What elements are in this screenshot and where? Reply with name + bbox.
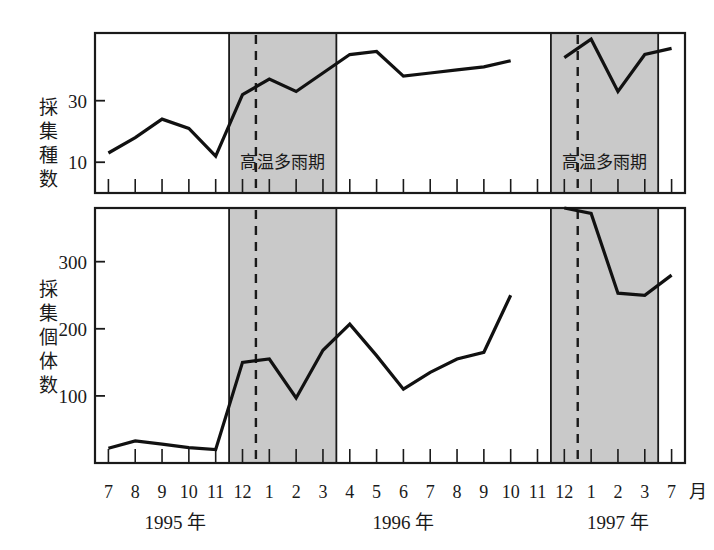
x-axis-month-label: 4 — [345, 482, 354, 502]
chart-canvas: 3010 高温多雨期高温多雨期 採集種数 300200100 採集個体数 789… — [0, 0, 714, 550]
x-axis-year-label: 1997 年 — [587, 512, 649, 533]
x-axis-month-label: 3 — [640, 482, 649, 502]
bottom-panel: 300200100 採集個体数 — [39, 208, 686, 463]
bottom-panel-y-ticks — [95, 262, 105, 396]
axis-title-char: 集 — [39, 303, 58, 324]
x-axis-year-label: 1996 年 — [373, 512, 435, 533]
x-axis-month-label: 9 — [158, 482, 167, 502]
top-panel: 3010 高温多雨期高温多雨期 採集種数 — [39, 33, 686, 193]
x-axis-year-labels: 1995 年1996 年1997 年 — [145, 512, 649, 533]
figure-root: 3010 高温多雨期高温多雨期 採集種数 300200100 採集個体数 789… — [0, 0, 714, 550]
axis-title-char: 採 — [39, 279, 58, 300]
bottom-panel-y-tick-labels: 300200100 — [59, 252, 88, 407]
x-axis-month-label: 2 — [292, 482, 301, 502]
axis-title-char: 体 — [39, 351, 58, 372]
x-axis-month-label: 11 — [529, 482, 546, 502]
x-axis-month-label: 2 — [613, 482, 622, 502]
x-axis-month-label: 8 — [453, 482, 462, 502]
axis-title-char: 数 — [39, 169, 58, 190]
x-axis-month-label: 8 — [131, 482, 140, 502]
y-tick-label: 200 — [59, 319, 88, 340]
top-panel-band-labels: 高温多雨期高温多雨期 — [240, 153, 647, 172]
x-axis-month-labels: 7891011121234567891011121237 — [104, 482, 676, 502]
x-axis-month-label: 9 — [479, 482, 488, 502]
x-axis-month-label: 10 — [180, 482, 198, 502]
x-axis-month-label: 3 — [318, 482, 327, 502]
shaded-band-1 — [551, 208, 658, 463]
top-panel-y-tick-labels: 3010 — [68, 91, 87, 174]
y-tick-label: 30 — [68, 91, 87, 112]
x-axis-month-label: 1 — [265, 482, 274, 502]
axis-title-char: 個 — [39, 327, 58, 348]
shaded-band-0 — [229, 208, 336, 463]
x-axis-month-label: 12 — [234, 482, 252, 502]
x-axis-month-label: 7 — [426, 482, 435, 502]
x-axis-month-label: 12 — [555, 482, 573, 502]
top-panel-axis-title: 採集種数 — [39, 97, 58, 190]
band-label-0: 高温多雨期 — [240, 153, 325, 172]
bottom-panel-shaded-bands — [229, 208, 658, 463]
top-panel-y-ticks — [95, 101, 105, 163]
axis-title-char: 集 — [39, 121, 58, 142]
x-axis-month-label: 1 — [587, 482, 596, 502]
y-tick-label: 300 — [59, 252, 88, 273]
x-axis: 7891011121234567891011121237 1995 年1996 … — [104, 482, 707, 533]
x-axis-year-label: 1995 年 — [145, 512, 207, 533]
axis-title-char: 種 — [39, 145, 58, 166]
band-label-1: 高温多雨期 — [562, 153, 647, 172]
axis-title-char: 採 — [39, 97, 58, 118]
month-unit-label: 月 — [689, 482, 707, 502]
bottom-panel-axis-title: 採集個体数 — [39, 279, 58, 396]
axis-title-char: 数 — [39, 375, 58, 396]
x-axis-month-label: 6 — [399, 482, 408, 502]
y-tick-label: 100 — [59, 386, 88, 407]
x-axis-month-label: 7 — [104, 482, 113, 502]
x-axis-month-label: 7 — [667, 482, 676, 502]
y-tick-label: 10 — [68, 152, 87, 173]
x-axis-month-label: 10 — [502, 482, 520, 502]
x-axis-month-label: 5 — [372, 482, 381, 502]
x-axis-month-label: 11 — [207, 482, 224, 502]
